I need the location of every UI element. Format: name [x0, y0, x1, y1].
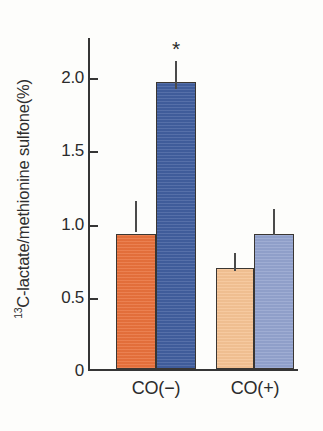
x-tick-label-co-plus: CO(+): [231, 378, 280, 399]
bar-texture: [117, 235, 155, 368]
bar-co-minus-orange[interactable]: [116, 234, 156, 369]
error-bar-co-minus-orange: [135, 201, 137, 232]
y-axis-title-superscript: 13: [12, 308, 24, 319]
y-tick-mark-1-5: [90, 151, 98, 153]
y-tick-mark-2-0: [90, 78, 98, 80]
x-axis-line: [88, 369, 298, 371]
error-bar-co-plus-orange: [234, 253, 236, 271]
y-tick-mark-1-0: [90, 225, 98, 227]
y-tick-mark-0-5: [90, 298, 98, 300]
y-tick-label-0: 0: [42, 361, 84, 381]
y-axis-tick-labels: 0 0.5 1.0 1.5 2.0: [38, 0, 84, 431]
y-tick-label-1-0: 1.0: [42, 215, 84, 235]
bar-co-plus-orange[interactable]: [216, 268, 254, 369]
y-axis-title-text: C-lactate/methionine sulfone(%): [14, 79, 32, 308]
plot-area: *: [88, 38, 298, 371]
significance-asterisk: *: [172, 38, 180, 59]
bar-texture: [217, 269, 253, 368]
bar-texture: [157, 83, 195, 368]
x-axis-tick-labels: CO(−) CO(+): [88, 378, 298, 408]
bar-co-minus-blue[interactable]: [156, 82, 196, 369]
bar-chart-figure: 13C-lactate/methionine sulfone(%) 0 0.5 …: [0, 0, 323, 431]
y-tick-label-0-5: 0.5: [42, 288, 84, 308]
y-axis-line: [88, 38, 90, 371]
y-tick-label-1-5: 1.5: [42, 141, 84, 161]
error-bar-co-minus-blue: [175, 61, 177, 89]
bar-texture: [255, 235, 293, 368]
bar-co-plus-blue[interactable]: [254, 234, 294, 369]
y-tick-label-2-0: 2.0: [42, 68, 84, 88]
y-axis-title: 13C-lactate/methionine sulfone(%): [5, 29, 31, 369]
error-bar-co-plus-blue: [273, 209, 275, 235]
x-tick-label-co-minus: CO(−): [132, 378, 181, 399]
